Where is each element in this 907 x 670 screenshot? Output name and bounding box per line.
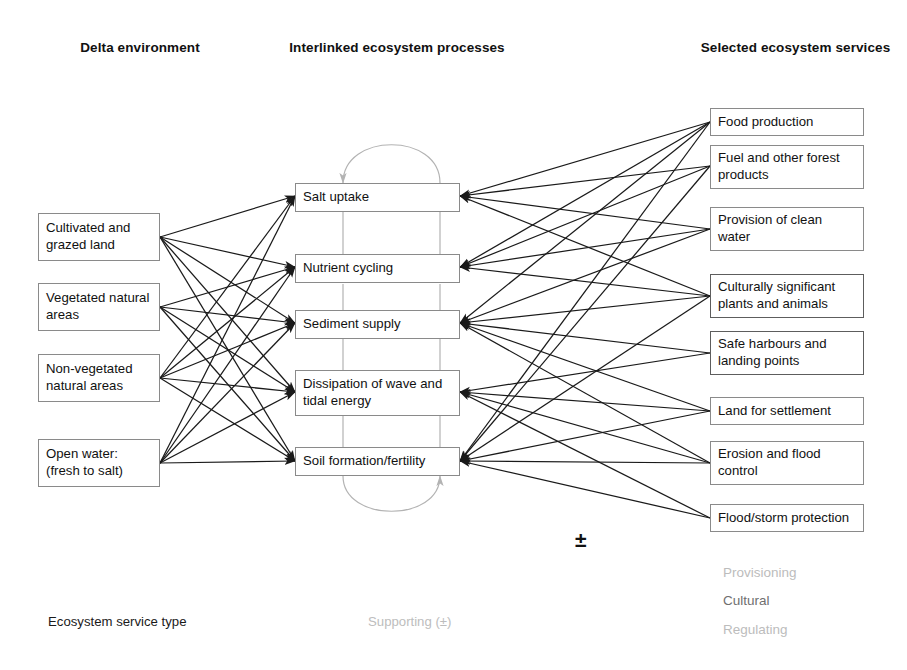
process-box-sediment-supply[interactable]: Sediment supply bbox=[295, 310, 460, 339]
service-label-land-settlement: Land for settlement bbox=[718, 403, 831, 420]
service-label-erosion-flood-control: Erosion and flood control bbox=[718, 446, 856, 480]
legend-plus-minus-symbol: ± bbox=[575, 524, 587, 556]
process-label-nutrient-cycling: Nutrient cycling bbox=[303, 260, 393, 277]
legend-provisioning: Provisioning bbox=[723, 565, 797, 580]
column-header-selected-services: Selected ecosystem services bbox=[688, 38, 903, 58]
process-box-nutrient-cycling[interactable]: Nutrient cycling bbox=[295, 254, 460, 283]
legend-cultural: Cultural bbox=[723, 593, 770, 608]
service-label-food-production: Food production bbox=[718, 114, 813, 131]
process-label-salt-uptake: Salt uptake bbox=[303, 189, 369, 206]
process-label-soil-formation: Soil formation/fertility bbox=[303, 453, 425, 470]
diagram-canvas: Delta environment Interlinked ecosystem … bbox=[0, 0, 907, 670]
service-box-erosion-flood-control[interactable]: Erosion and flood control bbox=[710, 441, 864, 485]
env-box-non-vegetated[interactable]: Non-vegetated natural areas bbox=[38, 354, 160, 402]
process-box-salt-uptake[interactable]: Salt uptake bbox=[295, 183, 460, 212]
process-box-soil-formation[interactable]: Soil formation/fertility bbox=[295, 447, 460, 476]
service-box-flood-storm-protection[interactable]: Flood/storm protection bbox=[710, 504, 864, 532]
service-box-land-settlement[interactable]: Land for settlement bbox=[710, 397, 864, 425]
env-label-vegetated: Vegetated natural areas bbox=[46, 290, 152, 324]
service-label-clean-water: Provision of clean water bbox=[718, 212, 856, 246]
service-box-culturally-significant[interactable]: Culturally significant plants and animal… bbox=[710, 274, 864, 318]
process-label-sediment-supply: Sediment supply bbox=[303, 316, 401, 333]
process-label-dissipation: Dissipation of wave and tidal energy bbox=[303, 376, 452, 410]
env-label-cultivated: Cultivated and grazed land bbox=[46, 220, 152, 254]
service-box-safe-harbours[interactable]: Safe harbours and landing points bbox=[710, 331, 864, 375]
column-header-interlinked-processes: Interlinked ecosystem processes bbox=[272, 38, 522, 58]
service-label-safe-harbours: Safe harbours and landing points bbox=[718, 336, 856, 370]
legend-ecosystem-service-type: Ecosystem service type bbox=[48, 612, 187, 632]
env-box-open-water[interactable]: Open water: (fresh to salt) bbox=[38, 439, 160, 487]
env-box-vegetated[interactable]: Vegetated natural areas bbox=[38, 283, 160, 331]
process-box-dissipation[interactable]: Dissipation of wave and tidal energy bbox=[295, 370, 460, 416]
service-label-flood-storm-protection: Flood/storm protection bbox=[718, 510, 849, 527]
service-box-food-production[interactable]: Food production bbox=[710, 108, 864, 136]
service-label-culturally-significant: Culturally significant plants and animal… bbox=[718, 279, 856, 313]
legend-regulating: Regulating bbox=[723, 622, 788, 637]
column-header-delta-environment: Delta environment bbox=[30, 38, 250, 58]
service-box-clean-water[interactable]: Provision of clean water bbox=[710, 207, 864, 251]
service-label-fuel-forest-products: Fuel and other forest products bbox=[718, 150, 856, 184]
service-box-fuel-forest-products[interactable]: Fuel and other forest products bbox=[710, 145, 864, 189]
env-box-cultivated[interactable]: Cultivated and grazed land bbox=[38, 213, 160, 261]
legend-supporting: Supporting (±) bbox=[368, 612, 451, 632]
env-label-open-water: Open water: (fresh to salt) bbox=[46, 446, 152, 480]
env-label-non-vegetated: Non-vegetated natural areas bbox=[46, 361, 152, 395]
